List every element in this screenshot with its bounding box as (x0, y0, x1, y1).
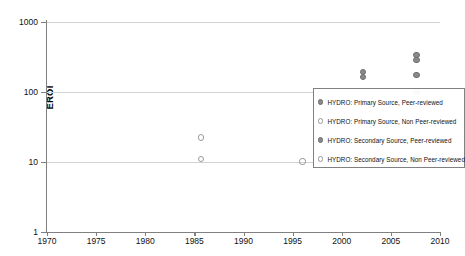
eroi-scatter-chart: EROI 1101001000 197019751980198519901995… (0, 0, 465, 256)
data-point (413, 72, 419, 78)
legend-label: HYDRO: Primary Source, Non Peer-reviewed (327, 118, 456, 125)
data-point (299, 158, 305, 164)
y-tick-label-1000: 1000 (0, 18, 38, 26)
legend-label: HYDRO: Secondary Source, Non Peer-review… (327, 156, 465, 163)
y-tick-mark-10 (41, 162, 47, 163)
x-tick-label-1975: 1975 (76, 236, 116, 246)
legend-item-2: HYDRO: Primary Source, Non Peer-reviewed (318, 114, 456, 128)
y-tick-label-100: 100 (0, 88, 38, 96)
x-tick-label-2005: 2005 (371, 236, 411, 246)
legend-marker-filled-circle-icon (318, 137, 323, 142)
y-tick-label-10: 10 (0, 158, 38, 166)
chart-legend: HYDRO: Primary Source, Peer-reviewedHYDR… (313, 88, 465, 168)
x-tick-label-1990: 1990 (224, 236, 264, 246)
x-tick-label-1995: 1995 (273, 236, 313, 246)
data-point (198, 134, 204, 140)
legend-marker-hollow-circle-icon (318, 156, 323, 161)
legend-label: HYDRO: Primary Source, Peer-reviewed (327, 99, 443, 106)
y-tick-mark-100 (41, 92, 47, 93)
y-axis-line (46, 20, 47, 233)
data-point (360, 74, 366, 80)
y-tick-mark-1000 (41, 22, 47, 23)
x-tick-label-2000: 2000 (322, 236, 362, 246)
data-point (198, 156, 204, 162)
x-tick-label-2010: 2010 (420, 236, 460, 246)
legend-label: HYDRO: Secondary Source, Peer-reviewed (327, 137, 451, 144)
legend-item-4: HYDRO: Secondary Source, Non Peer-review… (318, 152, 465, 166)
x-tick-label-1970: 1970 (27, 236, 67, 246)
legend-item-1: HYDRO: Primary Source, Peer-reviewed (318, 95, 443, 109)
legend-marker-hollow-circle-icon (318, 118, 323, 123)
x-tick-label-1985: 1985 (174, 236, 214, 246)
x-tick-label-1980: 1980 (125, 236, 165, 246)
legend-marker-filled-circle-icon (318, 99, 323, 104)
y-tick-label-1: 1 (0, 228, 38, 236)
legend-item-3: HYDRO: Secondary Source, Peer-reviewed (318, 133, 451, 147)
data-point (413, 57, 419, 63)
gridline-y-1000 (47, 22, 440, 23)
